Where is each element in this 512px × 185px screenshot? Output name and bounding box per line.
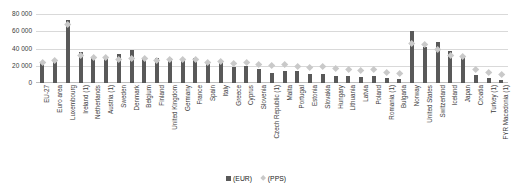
bar-group bbox=[304, 14, 317, 83]
marker-pps bbox=[255, 61, 263, 69]
bar-eur bbox=[295, 71, 299, 84]
marker-pps bbox=[281, 61, 289, 69]
x-label-slot: Bulgaria bbox=[393, 85, 406, 167]
bar-eur bbox=[346, 76, 350, 83]
bar-eur bbox=[270, 73, 274, 83]
x-label-slot: Italy bbox=[215, 85, 228, 167]
bar-group bbox=[355, 14, 368, 83]
x-tick-label: FYR Macedonia (1) bbox=[503, 85, 509, 140]
x-label-slot: Czech Republic (1) bbox=[266, 85, 279, 167]
bar-group bbox=[368, 14, 381, 83]
bar-group bbox=[113, 14, 126, 83]
bar-eur bbox=[257, 69, 261, 83]
x-label-slot: Cyprus bbox=[240, 85, 253, 167]
bar-eur bbox=[283, 71, 287, 83]
bar-eur bbox=[461, 57, 465, 83]
bar-group bbox=[176, 14, 189, 83]
marker-pps bbox=[357, 67, 365, 75]
bar-group bbox=[253, 14, 266, 83]
marker-pps bbox=[243, 58, 251, 66]
bar-group bbox=[74, 14, 87, 83]
x-label-slot: United States bbox=[419, 85, 432, 167]
bar-eur bbox=[474, 75, 478, 83]
legend-label-pps: (PPS) bbox=[268, 175, 286, 182]
x-label-slot: Ireland (1) bbox=[74, 85, 87, 167]
bar-eur bbox=[487, 78, 491, 83]
x-label-slot: Japan bbox=[457, 85, 470, 167]
marker-pps bbox=[370, 65, 378, 73]
x-label-slot: France bbox=[189, 85, 202, 167]
x-label-slot: Euro area bbox=[49, 85, 62, 167]
x-label-slot: Netherlands bbox=[87, 85, 100, 167]
x-label-slot: Austria (1) bbox=[100, 85, 113, 167]
x-label-slot: Poland bbox=[368, 85, 381, 167]
y-tick-label: 20 000 bbox=[0, 63, 32, 70]
marker-pps bbox=[102, 54, 110, 62]
marker-pps bbox=[408, 40, 416, 48]
y-tick-label: 0 bbox=[0, 80, 32, 87]
marker-pps bbox=[332, 65, 340, 73]
bar-group bbox=[457, 14, 470, 83]
x-label-slot: Spain bbox=[202, 85, 215, 167]
marker-pps bbox=[230, 60, 238, 68]
bar-eur bbox=[308, 74, 312, 83]
bar-eur bbox=[206, 64, 210, 83]
bar-eur bbox=[372, 76, 376, 83]
bar-eur bbox=[244, 66, 248, 83]
y-tick-label: 40 000 bbox=[0, 46, 32, 53]
x-label-slot: Malta bbox=[278, 85, 291, 167]
x-label-slot: Norway bbox=[406, 85, 419, 167]
bar-group bbox=[62, 14, 75, 83]
x-label-slot: Slovenia bbox=[253, 85, 266, 167]
bar-group bbox=[406, 14, 419, 83]
marker-pps bbox=[306, 64, 314, 72]
marker-pps bbox=[485, 69, 493, 77]
x-axis-labels: EU-27Euro areaLuxembourgIreland (1)Nethe… bbox=[36, 85, 508, 167]
x-label-slot: Latvia bbox=[355, 85, 368, 167]
y-tick-label: 60 000 bbox=[0, 28, 32, 35]
bar-eur bbox=[232, 67, 236, 83]
bar-eur bbox=[397, 79, 401, 83]
x-label-slot: Estonia bbox=[304, 85, 317, 167]
marker-pps bbox=[204, 58, 212, 66]
bar-group bbox=[470, 14, 483, 83]
marker-pps bbox=[396, 70, 404, 78]
x-label-slot: Hungary bbox=[329, 85, 342, 167]
x-label-slot: Luxembourg bbox=[62, 85, 75, 167]
x-label-slot: Croatia bbox=[470, 85, 483, 167]
x-label-slot: Turkey (1) bbox=[482, 85, 495, 167]
x-label-slot: Sweden bbox=[113, 85, 126, 167]
bar-group bbox=[342, 14, 355, 83]
legend-square-icon bbox=[226, 176, 231, 181]
bar-group bbox=[189, 14, 202, 83]
chart-legend: (EUR) (PPS) bbox=[0, 175, 512, 182]
x-label-slot: Germany bbox=[176, 85, 189, 167]
bar-group bbox=[266, 14, 279, 83]
x-label-slot: Denmark bbox=[125, 85, 138, 167]
bar-group bbox=[125, 14, 138, 83]
bar-group bbox=[482, 14, 495, 83]
bar-group bbox=[419, 14, 432, 83]
bar-series-layer bbox=[36, 14, 508, 83]
x-label-slot: EU-27 bbox=[36, 85, 49, 167]
marker-pps bbox=[115, 55, 123, 63]
legend-item-pps: (PPS) bbox=[261, 175, 286, 182]
bar-group bbox=[291, 14, 304, 83]
bar-eur bbox=[66, 20, 70, 83]
x-label-slot: Greece bbox=[227, 85, 240, 167]
bar-group bbox=[151, 14, 164, 83]
marker-pps bbox=[345, 66, 353, 74]
bar-group bbox=[240, 14, 253, 83]
bar-group bbox=[278, 14, 291, 83]
bar-group bbox=[393, 14, 406, 83]
x-label-slot: FYR Macedonia (1) bbox=[495, 85, 508, 167]
bar-group bbox=[227, 14, 240, 83]
x-label-slot: Iceland bbox=[444, 85, 457, 167]
legend-item-eur: (EUR) bbox=[226, 175, 252, 182]
chart-container: 80 000 60 000 40 000 20 000 0 EU-27Euro … bbox=[0, 0, 512, 185]
bar-group bbox=[87, 14, 100, 83]
marker-pps bbox=[294, 62, 302, 70]
bar-group bbox=[431, 14, 444, 83]
marker-pps bbox=[472, 66, 480, 74]
x-label-slot: Romania (1) bbox=[380, 85, 393, 167]
